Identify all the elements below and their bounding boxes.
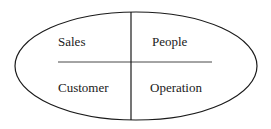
- quadrant-label-customer: Customer: [58, 81, 109, 94]
- quadrant-label-operation: Operation: [150, 81, 202, 94]
- diagram-canvas: [0, 0, 271, 129]
- outer-ellipse: [15, 12, 257, 120]
- quadrant-label-sales: Sales: [58, 35, 85, 48]
- quadrant-label-people: People: [152, 35, 187, 48]
